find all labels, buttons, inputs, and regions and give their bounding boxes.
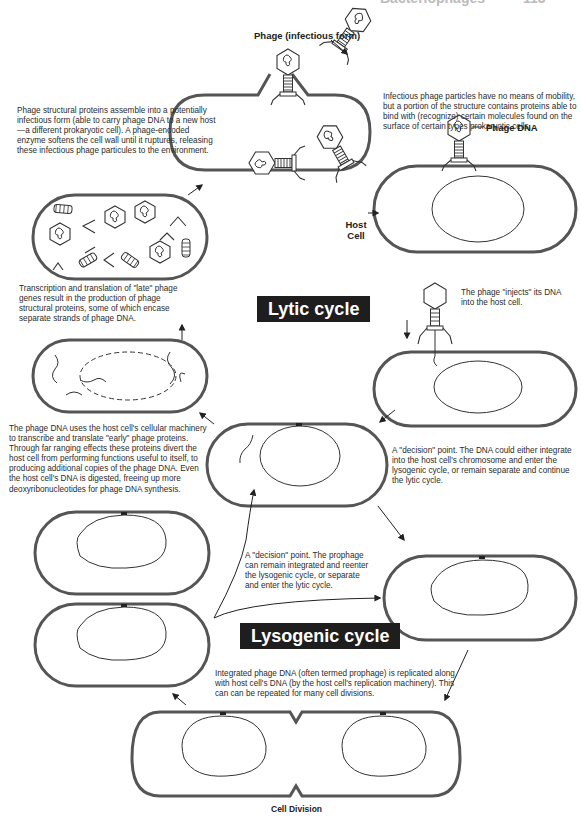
lysogen-cell bbox=[35, 604, 209, 686]
text-assembly: Phage structural proteins assemble into … bbox=[17, 106, 217, 156]
phage-head-icon bbox=[150, 241, 170, 263]
phage-tail-icon bbox=[182, 239, 190, 257]
phage-icon bbox=[249, 146, 305, 180]
text-late-genes: Transcription and translation of "late" … bbox=[19, 284, 179, 324]
running-title: Bacteriophages bbox=[380, 0, 485, 6]
phage-head-icon bbox=[105, 206, 125, 228]
label-phage-infectious: Phage (infectious form) bbox=[254, 30, 360, 41]
lysogenic-cycle-title: Lysogenic cycle bbox=[240, 623, 400, 649]
lytic-cycle-title: Lytic cycle bbox=[257, 296, 370, 322]
host-cell bbox=[374, 166, 576, 252]
text-injection: The phage "injects" its DNA into the hos… bbox=[461, 288, 571, 308]
lysogen-cell-right bbox=[384, 556, 576, 640]
phage-icon bbox=[271, 49, 305, 105]
lysogen-cell bbox=[35, 512, 209, 594]
arrow bbox=[378, 506, 404, 540]
decision-cell bbox=[207, 424, 387, 506]
arrow bbox=[214, 598, 380, 618]
phage-head-icon bbox=[135, 201, 155, 223]
arrow bbox=[200, 413, 214, 424]
label-phage-dna: Phage DNA bbox=[486, 122, 538, 133]
running-header: Bacteriophages 113 bbox=[380, 0, 546, 6]
phage-head-icon bbox=[50, 223, 70, 245]
arrow bbox=[188, 185, 202, 195]
text-replication: Integrated phage DNA (often termed proph… bbox=[215, 669, 459, 699]
text-decision-prophage: A "decision" point. The prophage can rem… bbox=[245, 551, 375, 591]
label-cell-division: Cell Division bbox=[271, 804, 322, 815]
page-number: 113 bbox=[523, 0, 546, 6]
phage-icon bbox=[309, 117, 366, 182]
label-host-cell: Host Cell bbox=[345, 219, 367, 241]
text-decision-dna: A "decision" point. The DNA could either… bbox=[392, 446, 581, 486]
injected-cell bbox=[374, 352, 576, 426]
text-attachment: Infectious phage particles have no means… bbox=[383, 92, 579, 132]
text-early-genes: The phage DNA uses the host cell's cellu… bbox=[9, 424, 209, 495]
dividing-cell bbox=[132, 712, 460, 796]
arrow bbox=[173, 694, 186, 705]
phage-tail-icon bbox=[54, 204, 73, 214]
replication-cell bbox=[33, 340, 207, 412]
